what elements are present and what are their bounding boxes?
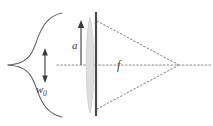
figure-background: [0, 0, 213, 126]
optics-figure: w 0 a f: [0, 0, 213, 126]
beam-waist-label-subscript: 0: [43, 89, 47, 98]
figure-canvas: w 0 a f: [0, 0, 213, 126]
lens-element: [86, 17, 94, 113]
aperture-radius-label: a: [72, 39, 78, 51]
